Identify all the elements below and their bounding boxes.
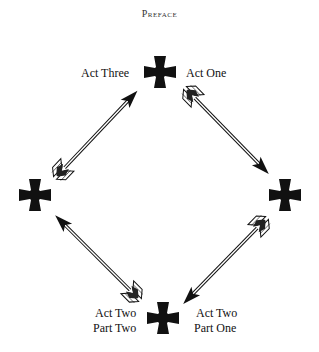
arrow-icon-act-two-part-one — [177, 212, 274, 310]
label-act-two-part-one-line1: Act Two — [196, 306, 237, 321]
arrow-icon-act-one — [179, 82, 276, 180]
arrow-icon-act-two-part-two — [49, 209, 147, 307]
cross-pattee-icon-top — [144, 56, 176, 88]
arrow-icon-act-three — [48, 85, 144, 185]
label-act-one: Act One — [186, 66, 226, 81]
label-act-two-part-one-line2: Part One — [194, 321, 236, 336]
label-act-two-part-two-line2: Part Two — [93, 321, 136, 336]
cross-pattee-icon-left — [19, 179, 51, 211]
cross-pattee-icon-bottom — [147, 302, 179, 334]
label-act-two-part-two-line1: Act Two — [95, 306, 136, 321]
cross-pattee-icon-right — [269, 179, 301, 211]
label-act-three: Act Three — [81, 66, 129, 81]
act-structure-diagram — [0, 0, 319, 352]
